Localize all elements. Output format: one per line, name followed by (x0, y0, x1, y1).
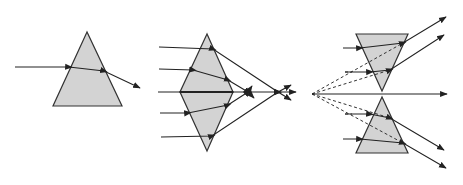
upper-prism (180, 34, 233, 92)
converging-prisms-panel (158, 34, 296, 151)
upper-inverted-prism (356, 34, 408, 91)
diverging-prisms-panel (312, 17, 447, 168)
lower-prism (180, 92, 233, 151)
single-prism-panel (15, 32, 140, 106)
prism-refraction-diagram (0, 0, 463, 185)
lower-prism (356, 97, 408, 153)
